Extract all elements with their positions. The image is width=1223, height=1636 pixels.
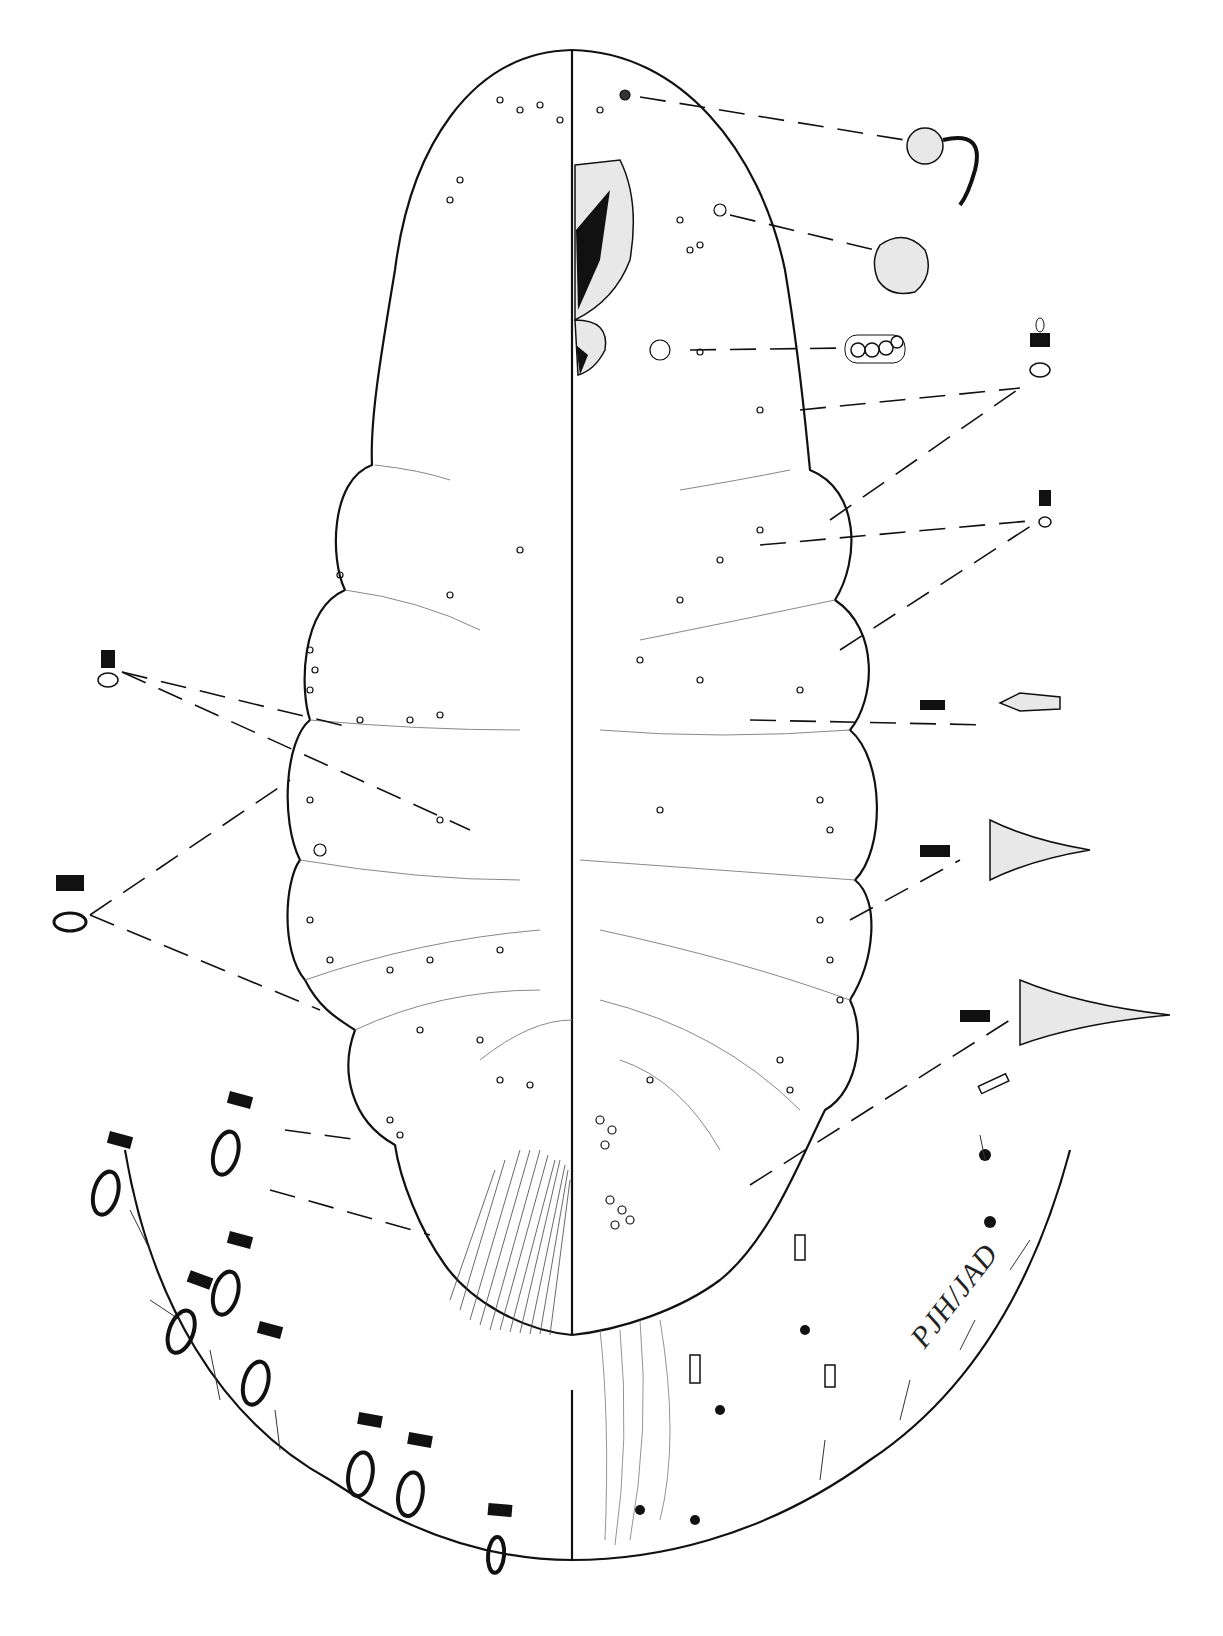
- tubular-duct-detail: [907, 128, 943, 164]
- fringe-ducts-left: [88, 1091, 512, 1574]
- anal-region-hatching: [450, 1150, 570, 1335]
- marginal-fringe: [125, 1150, 1070, 1560]
- ventral-median-stipple: [600, 1320, 670, 1545]
- morphology-plate: PJH/JAD: [0, 0, 1223, 1636]
- cerarian-spine-detail-2: [960, 980, 1170, 1045]
- callouts-left: [54, 650, 118, 931]
- small-duct-detail: [978, 1074, 1009, 1094]
- insect-illustration: [0, 0, 1223, 1636]
- callouts-right: [845, 128, 1170, 1094]
- duct-large-detail: [1030, 318, 1050, 377]
- spine-detail-1: [920, 693, 1060, 711]
- multilocular-pores-detail: [845, 335, 905, 363]
- segment-lines: [300, 465, 855, 1150]
- duct-small-detail: [1039, 490, 1051, 527]
- mouthparts: [575, 160, 633, 375]
- oral-rim-pore-detail: [874, 238, 928, 294]
- cerarian-spine-detail-1: [920, 820, 1090, 880]
